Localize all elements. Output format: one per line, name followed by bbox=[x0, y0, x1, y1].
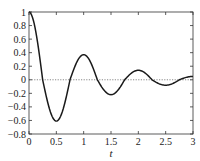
plot-frame bbox=[29, 12, 193, 134]
y-tick-label: 0.2 bbox=[14, 61, 27, 72]
y-tick-label: 0.8 bbox=[14, 20, 27, 31]
x-tick-label: 1.5 bbox=[105, 136, 118, 147]
data-curve bbox=[29, 12, 193, 121]
x-axis-label: t bbox=[109, 147, 113, 159]
y-tick-label: 0.6 bbox=[14, 34, 27, 45]
y-tick-label: −0.8 bbox=[8, 129, 26, 140]
chart: −0.8−0.6−0.4−0.200.20.40.60.81 00.511.52… bbox=[0, 0, 200, 161]
x-tick-label: 2 bbox=[136, 136, 141, 147]
x-tick-label: 0.5 bbox=[50, 136, 63, 147]
y-tick-label: 1 bbox=[21, 7, 26, 18]
x-tick-label: 2.5 bbox=[159, 136, 172, 147]
x-tick-label: 0 bbox=[27, 136, 32, 147]
x-tick-label: 3 bbox=[191, 136, 196, 147]
y-tick-label: −0.4 bbox=[8, 101, 26, 112]
y-axis-ticks: −0.8−0.6−0.4−0.200.20.40.60.81 bbox=[8, 7, 193, 140]
y-tick-label: 0.4 bbox=[14, 47, 27, 58]
y-tick-label: 0 bbox=[21, 74, 26, 85]
y-tick-label: −0.2 bbox=[8, 88, 26, 99]
x-tick-label: 1 bbox=[81, 136, 86, 147]
y-tick-label: −0.6 bbox=[8, 115, 26, 126]
